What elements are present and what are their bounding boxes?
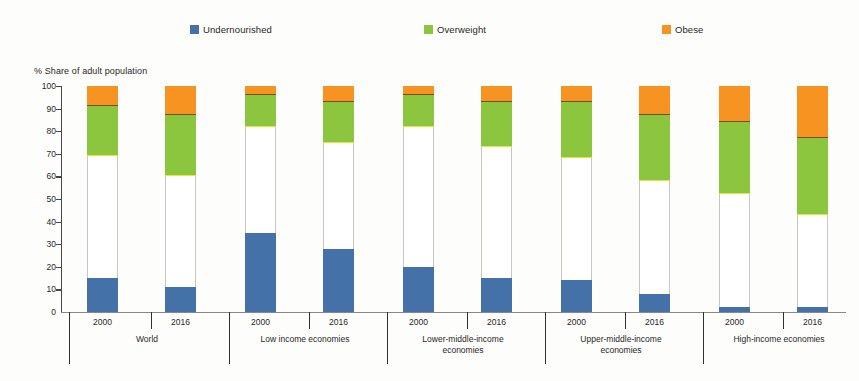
x-axis-group-label: High-income economies xyxy=(699,334,859,345)
x-axis-group-label: Low income economies xyxy=(225,334,385,345)
bar-segment-overweight xyxy=(481,102,512,147)
bar-segment-overweight xyxy=(561,102,592,159)
x-axis-year-separator xyxy=(783,312,784,329)
stacked-bar[interactable] xyxy=(323,86,354,312)
x-axis-year-label: 2016 xyxy=(465,317,528,327)
stacked-bar[interactable] xyxy=(639,86,670,312)
bar-segment-undernourished xyxy=(87,278,118,312)
y-axis-tick-mark xyxy=(56,176,61,177)
legend-swatch-icon xyxy=(424,25,433,34)
y-axis-tick-label: 50 xyxy=(47,195,56,204)
bar-segment-overweight xyxy=(323,102,354,143)
plot-area: 0102030405060708090100 xyxy=(34,82,846,317)
x-axis-year-label: 2016 xyxy=(623,317,686,327)
legend-label: Undernourished xyxy=(203,24,272,35)
x-axis-year-separator xyxy=(467,312,468,329)
chart-page: UndernourishedOverweightObese % Share of… xyxy=(0,0,859,381)
y-axis-tick-label: 80 xyxy=(47,127,56,136)
x-axis-year-separator xyxy=(151,312,152,329)
bar-segment-obese xyxy=(323,86,354,102)
stacked-bar[interactable] xyxy=(245,86,276,312)
stacked-bar[interactable] xyxy=(797,86,828,312)
legend-label: Overweight xyxy=(437,24,486,35)
x-axis-year-label: 2000 xyxy=(387,317,450,327)
legend-item-overweight[interactable]: Overweight xyxy=(424,24,486,35)
x-axis-year-label: 2016 xyxy=(149,317,212,327)
y-axis-tick-label: 60 xyxy=(47,172,56,181)
bar-series-container xyxy=(62,86,846,312)
x-axis-group-label: Upper-middle-incomeeconomies xyxy=(541,334,701,356)
x-axis-year-label: 2000 xyxy=(229,317,292,327)
y-axis-tick-mark xyxy=(56,154,61,155)
bar-segment-overweight xyxy=(403,95,434,127)
bar-segment-overweight xyxy=(797,138,828,215)
legend-swatch-icon xyxy=(662,25,671,34)
bar-segment-undernourished xyxy=(245,233,276,312)
y-axis-tick-mark xyxy=(56,86,61,87)
x-axis-year-label: 2000 xyxy=(545,317,608,327)
bar-segment-undernourished xyxy=(561,280,592,312)
stacked-bar[interactable] xyxy=(87,86,118,312)
y-axis-tick-label: 100 xyxy=(42,82,56,91)
y-axis-tick-mark xyxy=(56,244,61,245)
x-axis-category-area: 2000201620002016200020162000201620002016… xyxy=(34,312,846,381)
x-axis-year-separator xyxy=(309,312,310,329)
stacked-bar[interactable] xyxy=(719,86,750,312)
bar-segment-obese xyxy=(639,86,670,115)
legend-item-undernourished[interactable]: Undernourished xyxy=(190,24,272,35)
y-axis-tick-mark xyxy=(56,289,61,290)
bar-segment-obese xyxy=(245,86,276,95)
x-axis-year-label: 2000 xyxy=(703,317,766,327)
x-axis-group-label: World xyxy=(67,334,227,345)
bar-segment-undernourished xyxy=(639,294,670,312)
y-axis-title: % Share of adult population xyxy=(34,66,147,76)
bar-segment-undernourished xyxy=(481,278,512,312)
y-axis-tick-mark xyxy=(56,222,61,223)
bar-segment-undernourished xyxy=(165,287,196,312)
y-axis-tick-mark xyxy=(56,109,61,110)
bar-segment-obese xyxy=(87,86,118,106)
y-axis-tick-label: 40 xyxy=(47,217,56,226)
bar-segment-obese xyxy=(403,86,434,95)
x-axis-year-separator xyxy=(625,312,626,329)
bar-segment-undernourished xyxy=(403,267,434,312)
y-axis-tick-label: 20 xyxy=(47,262,56,271)
bar-segment-obese xyxy=(561,86,592,102)
bar-segment-obese xyxy=(165,86,196,115)
stacked-bar[interactable] xyxy=(481,86,512,312)
y-axis-tick-label: 30 xyxy=(47,240,56,249)
bar-segment-overweight xyxy=(719,122,750,194)
bar-segment-obese xyxy=(719,86,750,122)
stacked-bar[interactable] xyxy=(403,86,434,312)
bar-segment-overweight xyxy=(165,115,196,176)
y-axis-tick-label: 10 xyxy=(47,285,56,294)
stacked-bar[interactable] xyxy=(165,86,196,312)
bar-segment-overweight xyxy=(87,106,118,156)
bar-segment-overweight xyxy=(245,95,276,127)
y-axis-tick-mark xyxy=(56,199,61,200)
bar-segment-obese xyxy=(481,86,512,102)
y-axis-tick-label: 90 xyxy=(47,104,56,113)
legend-swatch-icon xyxy=(190,25,199,34)
x-axis-group-label: Lower-middle-incomeeconomies xyxy=(383,334,543,356)
bar-segment-undernourished xyxy=(323,249,354,312)
chart-legend: UndernourishedOverweightObese xyxy=(0,24,859,42)
legend-item-obese[interactable]: Obese xyxy=(662,24,704,35)
x-axis-year-label: 2016 xyxy=(307,317,370,327)
bar-segment-obese xyxy=(797,86,828,138)
y-axis-tick-label: 70 xyxy=(47,149,56,158)
y-axis-tick-mark xyxy=(56,267,61,268)
y-axis-tick-mark xyxy=(56,131,61,132)
y-axis-tick-labels: 0102030405060708090100 xyxy=(34,82,56,317)
x-axis-year-label: 2000 xyxy=(71,317,134,327)
stacked-bar[interactable] xyxy=(561,86,592,312)
legend-label: Obese xyxy=(675,24,704,35)
bar-segment-overweight xyxy=(639,115,670,181)
x-axis-year-label: 2016 xyxy=(781,317,844,327)
